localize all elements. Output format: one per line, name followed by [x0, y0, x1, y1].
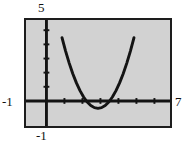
- x-max-label: 7: [175, 95, 182, 108]
- parabola-curve: [62, 38, 134, 109]
- plot-area: [26, 20, 170, 126]
- x-min-label: -1: [2, 95, 13, 108]
- graph-figure: 5 -1 7 -1: [0, 0, 194, 146]
- y-max-label: 5: [38, 1, 45, 14]
- y-min-label: -1: [36, 129, 47, 142]
- calculator-screen: [24, 18, 172, 128]
